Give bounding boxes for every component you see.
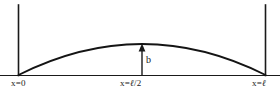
left-label-value: 0 (21, 78, 26, 88)
mid-label-prefix: x= (120, 78, 130, 88)
max-deflection-label: b (146, 55, 151, 65)
cable-deflection-figure: x=0 x=ℓ/2 x=ℓ b (0, 0, 280, 100)
right-support-label: x=ℓ (252, 79, 266, 88)
midspan-label: x=ℓ/2 (120, 79, 141, 88)
right-label-prefix: x= (252, 78, 262, 88)
left-support-label: x=0 (11, 79, 26, 88)
mid-label-value: /2 (134, 78, 141, 88)
left-label-prefix: x= (11, 78, 21, 88)
right-label-ell-symbol: ℓ (262, 78, 266, 88)
